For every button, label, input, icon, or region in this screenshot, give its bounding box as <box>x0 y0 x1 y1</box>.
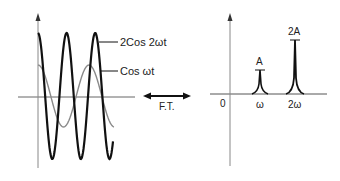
peak-2a <box>286 40 304 94</box>
fourier-transform-arrow <box>143 93 191 100</box>
tick-label-omega: ω <box>256 100 264 110</box>
label-origin: 0 <box>220 99 226 109</box>
freq-axis-y-arrow-icon <box>228 13 233 21</box>
label-ft: F.T. <box>159 102 175 112</box>
time-domain-panel <box>18 13 135 168</box>
frequency-domain-panel <box>210 13 327 166</box>
label-2cos-2wt: 2Cos 2ωt <box>120 37 167 48</box>
peak-a <box>252 70 268 94</box>
2cos-2wt-curve <box>38 33 113 159</box>
label-cos-wt: Cos ωt <box>120 66 154 77</box>
time-axis-y-arrow-icon <box>36 13 41 21</box>
arrow-right-icon <box>183 93 191 100</box>
peak-label-a: A <box>256 57 263 67</box>
tick-label-2omega: 2ω <box>288 100 301 110</box>
arrow-left-icon <box>143 93 151 100</box>
peak-label-2a: 2A <box>288 27 300 37</box>
